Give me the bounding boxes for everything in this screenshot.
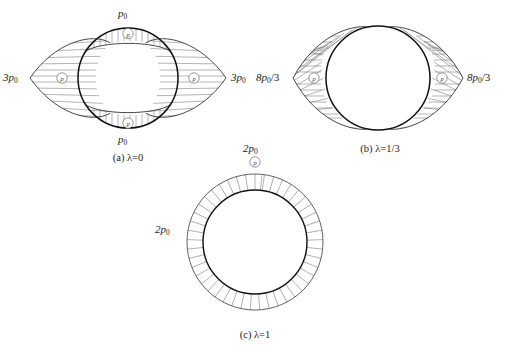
panel-b-diagram: p p — [291, 26, 465, 132]
panel-a-bottom-pressure-label-sub: 0 — [124, 138, 128, 147]
panel-a-right-pressure-label: 3p0 — [231, 72, 246, 84]
panel-a-top-pressure-label: p0 — [118, 8, 127, 20]
panel-b-tunnel-circle — [326, 26, 430, 130]
panel-c-top-pressure-label: 2p0 — [243, 143, 258, 155]
panel-c-top-pressure-marker: p — [250, 157, 260, 167]
pressure-distribution-figure: p p p p — [0, 0, 511, 351]
figure-canvas: p p p p — [0, 0, 511, 351]
panel-c-diagram: p — [183, 157, 327, 314]
panel-a-tunnel-circle — [78, 28, 178, 128]
panel-b-right-pressure-label-base: 8p — [467, 71, 478, 83]
panel-c-top-pressure-label-sub: 0 — [254, 147, 258, 156]
panel-a-right-pressure-label-sub: 0 — [242, 76, 246, 85]
panel-a-left-pressure-label: 3p0 — [3, 72, 18, 84]
panel-a-left-pressure-label-sub: 0 — [14, 76, 18, 85]
panel-b-left-pressure-label: 8p0/3 — [256, 72, 279, 84]
panel-a-diagram: p p p p — [28, 23, 228, 133]
panel-a-bottom-pressure-label: p0 — [118, 134, 127, 146]
panel-b-right-pressure-label-suffix: /3 — [482, 71, 491, 83]
panel-c-left-pressure-label: 2p0 — [155, 224, 170, 236]
panel-c-left-pressure-label-sub: 0 — [166, 228, 170, 237]
panel-c-top-pressure-label-base: 2p — [243, 142, 254, 154]
panel-b-left-pressure-label-base: 8p — [256, 71, 267, 83]
panel-a-left-pressure-label-base: 3p — [3, 71, 14, 83]
panel-b-left-pressure-marker: p — [309, 73, 319, 83]
panel-a-right-pressure-label-base: 3p — [231, 71, 242, 83]
panel-b-caption: (b) λ=1/3 — [342, 143, 418, 154]
panel-a-left-pressure-marker: p — [57, 73, 67, 83]
panel-a-bottom-pressure-marker: p — [123, 118, 133, 128]
panel-c-left-pressure-label-base: 2p — [155, 223, 166, 235]
panel-a-top-pressure-label-sub: 0 — [124, 12, 128, 21]
panel-c-caption: (c) λ=1 — [222, 329, 288, 340]
panel-a-top-pressure-marker: p — [123, 28, 133, 38]
panel-c-tunnel-circle — [203, 190, 307, 294]
panel-b-right-pressure-label: 8p0/3 — [467, 72, 490, 84]
panel-a-caption: (a) λ=0 — [93, 152, 163, 163]
panel-b-left-pressure-label-suffix: /3 — [271, 71, 280, 83]
panel-a-right-pressure-marker: p — [189, 73, 199, 83]
panel-b-right-pressure-marker: p — [437, 73, 447, 83]
